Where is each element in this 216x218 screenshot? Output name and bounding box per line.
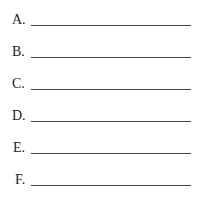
answer-row-f: F. bbox=[0, 172, 216, 192]
answer-label: C. bbox=[12, 76, 25, 92]
answer-blank-b[interactable] bbox=[31, 57, 191, 58]
answer-label: A. bbox=[12, 12, 26, 28]
answer-row-d: D. bbox=[0, 108, 216, 128]
answer-blank-f[interactable] bbox=[31, 185, 191, 186]
answer-blank-e[interactable] bbox=[31, 153, 191, 154]
answer-label: E. bbox=[13, 140, 25, 156]
answer-row-e: E. bbox=[0, 140, 216, 160]
answer-label: B. bbox=[12, 44, 25, 60]
answer-blank-a[interactable] bbox=[31, 25, 191, 26]
answer-blank-c[interactable] bbox=[31, 89, 191, 90]
answer-row-a: A. bbox=[0, 12, 216, 32]
answer-blank-d[interactable] bbox=[31, 121, 191, 122]
answer-row-c: C. bbox=[0, 76, 216, 96]
answer-row-b: B. bbox=[0, 44, 216, 64]
answer-label: D. bbox=[12, 108, 26, 124]
answer-label: F. bbox=[15, 172, 25, 188]
